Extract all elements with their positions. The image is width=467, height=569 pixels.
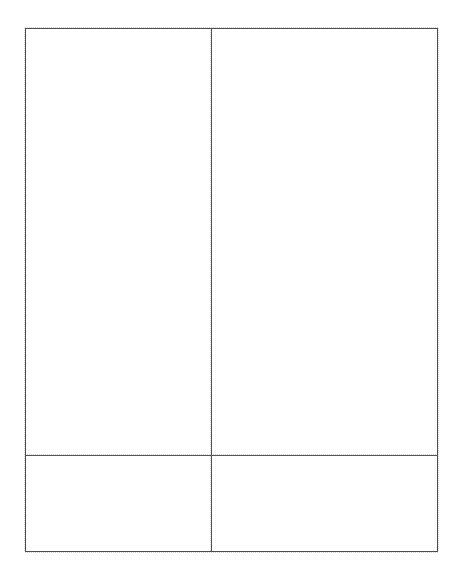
scan-surface xyxy=(0,0,467,569)
body-cell-left-text xyxy=(26,29,211,455)
footer-cell-right-text xyxy=(212,456,437,551)
footer-cell-left-text xyxy=(26,456,211,551)
body-cell-right-text xyxy=(212,29,437,455)
body-cell-left[interactable] xyxy=(26,29,212,455)
footer-cell-right[interactable] xyxy=(212,456,437,551)
footer-cell-left[interactable] xyxy=(26,456,212,551)
table-row xyxy=(26,29,437,456)
form-table xyxy=(25,28,438,552)
body-cell-right[interactable] xyxy=(212,29,437,455)
table-row xyxy=(26,456,437,551)
